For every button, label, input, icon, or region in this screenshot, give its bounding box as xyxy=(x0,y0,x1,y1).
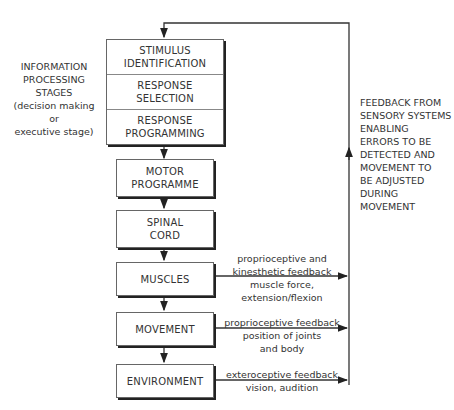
feedback-description-label: FEEDBACK FROM SENSORY SYSTEMS ENABLING E… xyxy=(360,96,454,213)
spinal-cord-label: SPINAL CORD xyxy=(117,211,213,247)
response-selection-stage: RESPONSE SELECTION xyxy=(107,74,223,109)
motor-programme-label: MOTOR PROGRAMME xyxy=(117,160,213,196)
response-programming-stage: RESPONSE PROGRAMMING xyxy=(107,109,223,144)
info-processing-label: INFORMATION PROCESSING STAGES (decision … xyxy=(12,60,96,138)
environment-box: ENVIRONMENT xyxy=(116,364,214,398)
muscles-feedback-label: proprioceptive and kinesthetic feedback … xyxy=(222,252,342,304)
movement-label: MOVEMENT xyxy=(117,313,213,345)
environment-feedback-label: exteroceptive feedback vision, audition xyxy=(218,368,346,394)
environment-label: ENVIRONMENT xyxy=(117,365,213,397)
muscles-label: MUSCLES xyxy=(117,263,213,295)
motor-programme-box: MOTOR PROGRAMME xyxy=(116,159,214,197)
information-processing-stages-box: STIMULUS IDENTIFICATION RESPONSE SELECTI… xyxy=(106,39,224,145)
muscles-box: MUSCLES xyxy=(116,262,214,296)
stimulus-identification-stage: STIMULUS IDENTIFICATION xyxy=(107,40,223,74)
spinal-cord-box: SPINAL CORD xyxy=(116,210,214,248)
movement-box: MOVEMENT xyxy=(116,312,214,346)
movement-feedback-label: proprioceptive feedback position of join… xyxy=(218,316,346,355)
